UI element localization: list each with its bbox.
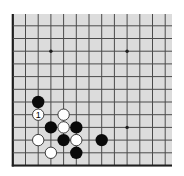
white-stone-disc (58, 109, 69, 120)
black-stone-disc (32, 96, 44, 108)
black-stone[interactable] (70, 147, 82, 159)
white-stone-disc (33, 134, 44, 145)
black-stone[interactable] (70, 121, 82, 133)
black-stone-disc (45, 121, 57, 133)
move-number-label: 1 (36, 110, 41, 120)
black-stone[interactable] (45, 121, 57, 133)
white-stone-disc (58, 122, 69, 133)
white-stone-disc (71, 134, 82, 145)
white-stone[interactable] (33, 134, 44, 145)
go-board[interactable]: 1 (0, 0, 184, 176)
black-stone-disc (57, 134, 69, 146)
black-stone-disc (96, 134, 108, 146)
white-stone[interactable] (71, 134, 82, 145)
white-stone-disc (45, 147, 56, 158)
black-stone-disc (70, 147, 82, 159)
black-stone[interactable] (32, 96, 44, 108)
white-stone[interactable] (45, 147, 56, 158)
black-stone-disc (70, 121, 82, 133)
white-stone[interactable] (58, 122, 69, 133)
go-board-diagram[interactable]: 1 (0, 0, 184, 176)
white-stone[interactable] (58, 109, 69, 120)
black-stone[interactable] (57, 134, 69, 146)
black-stone[interactable] (96, 134, 108, 146)
star-point (125, 126, 128, 129)
star-point (125, 50, 128, 53)
white-stone[interactable]: 1 (33, 109, 44, 120)
star-point (49, 50, 52, 53)
